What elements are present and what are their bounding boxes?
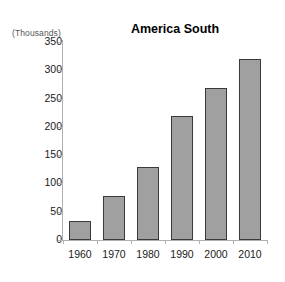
x-tick-label: 2010 bbox=[233, 248, 267, 260]
y-tick-row: 300 bbox=[0, 70, 62, 71]
x-tick-label: 1990 bbox=[165, 248, 199, 260]
y-tick-mark bbox=[58, 70, 63, 71]
x-tick-label: 1970 bbox=[97, 248, 131, 260]
x-tick-label: 1980 bbox=[131, 248, 165, 260]
y-tick-row: 0 bbox=[0, 240, 62, 241]
y-tick-label: 0 bbox=[16, 233, 62, 245]
x-tick-mark bbox=[165, 240, 166, 244]
y-tick-label: 300 bbox=[16, 63, 62, 75]
y-tick-mark bbox=[58, 99, 63, 100]
y-tick-mark bbox=[58, 155, 63, 156]
x-tick-mark bbox=[233, 240, 234, 244]
y-tick-label: 150 bbox=[16, 148, 62, 160]
bar bbox=[205, 88, 227, 240]
y-tick-row: 350 bbox=[0, 42, 62, 43]
y-tick-label: 50 bbox=[16, 205, 62, 217]
y-tick-row: 200 bbox=[0, 127, 62, 128]
y-tick-row: 250 bbox=[0, 99, 62, 100]
y-tick-label: 350 bbox=[16, 35, 62, 47]
plot-area: 050100150200250300350 196019701980199020… bbox=[0, 0, 285, 282]
bar-chart: (Thousands) America South 05010015020025… bbox=[0, 0, 285, 282]
y-tick-row: 50 bbox=[0, 212, 62, 213]
y-tick-row: 150 bbox=[0, 155, 62, 156]
x-tick-mark bbox=[63, 240, 64, 244]
x-tick-mark bbox=[131, 240, 132, 244]
y-tick-label: 200 bbox=[16, 120, 62, 132]
x-tick-mark bbox=[97, 240, 98, 244]
x-tick-mark bbox=[267, 240, 268, 244]
bar bbox=[171, 116, 193, 240]
x-tick-label: 1960 bbox=[63, 248, 97, 260]
y-tick-mark bbox=[58, 183, 63, 184]
bar bbox=[137, 167, 159, 240]
x-tick-label: 2000 bbox=[199, 248, 233, 260]
y-tick-row: 100 bbox=[0, 183, 62, 184]
x-tick-mark bbox=[199, 240, 200, 244]
y-tick-mark bbox=[58, 42, 63, 43]
y-tick-label: 250 bbox=[16, 92, 62, 104]
y-tick-mark bbox=[58, 127, 63, 128]
bar bbox=[103, 196, 125, 240]
bar bbox=[239, 59, 261, 240]
bar bbox=[69, 221, 91, 240]
y-tick-label: 100 bbox=[16, 176, 62, 188]
y-tick-mark bbox=[58, 212, 63, 213]
